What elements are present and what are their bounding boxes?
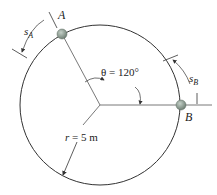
point-a-label: A (57, 8, 66, 22)
radius-label: r = 5 m (65, 131, 98, 143)
particle-b (176, 100, 186, 110)
radius-line-a (62, 34, 100, 105)
sa-tick-1 (49, 12, 57, 28)
radius-arrow (63, 142, 77, 175)
radius-line-r (83, 105, 100, 125)
angle-label: θ = 120° (101, 66, 139, 78)
particle-a (57, 29, 67, 39)
sa-tick-2 (12, 49, 27, 58)
arc-b-label: sB (189, 72, 198, 87)
point-b-label: B (185, 110, 193, 124)
angle-arrow (135, 87, 140, 104)
circular-path-diagram: A B sA sB θ = 120° r = 5 m (0, 0, 217, 195)
arc-a-label: sA (24, 25, 33, 40)
sb-dimension-arc (173, 60, 190, 84)
angle-arc (85, 78, 104, 82)
